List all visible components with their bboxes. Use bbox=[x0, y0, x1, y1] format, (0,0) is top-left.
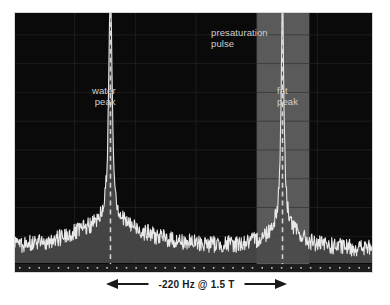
axis-tick bbox=[97, 267, 99, 269]
axis-tick bbox=[184, 267, 186, 269]
axis-tick bbox=[339, 267, 341, 269]
axis-tick bbox=[290, 267, 292, 269]
axis-tick bbox=[68, 267, 70, 269]
axis-tick bbox=[252, 267, 254, 269]
axis-tick bbox=[48, 267, 50, 269]
axis-tick bbox=[174, 267, 176, 269]
axis-measurement-label: -220 Hz @ 1.5 T bbox=[97, 279, 297, 290]
axis-tick bbox=[261, 267, 263, 269]
axis-tick bbox=[310, 267, 312, 269]
axis-tick bbox=[106, 267, 108, 269]
axis-tick bbox=[194, 267, 196, 269]
axis-tick bbox=[329, 267, 331, 269]
axis-tick bbox=[213, 267, 215, 269]
axis-tick bbox=[242, 267, 244, 269]
axis-tick bbox=[232, 267, 234, 269]
axis-tick bbox=[77, 267, 79, 269]
axis-tick bbox=[19, 267, 21, 269]
axis-tick bbox=[358, 267, 360, 269]
axis-tick bbox=[271, 267, 273, 269]
axis-tick bbox=[164, 267, 166, 269]
axis-tick bbox=[155, 267, 157, 269]
axis-tick bbox=[58, 267, 60, 269]
spectrum-figure: presaturation pulse water peak fat peak … bbox=[0, 0, 390, 305]
spectrum-chart bbox=[15, 13, 372, 272]
axis-tick bbox=[368, 267, 370, 269]
axis-tick bbox=[126, 267, 128, 269]
spectrum-plot-area: presaturation pulse water peak fat peak bbox=[14, 12, 373, 273]
axis-tick bbox=[223, 267, 225, 269]
axis-tick bbox=[145, 267, 147, 269]
axis-tick bbox=[300, 267, 302, 269]
axis-tick bbox=[203, 267, 205, 269]
axis-tick bbox=[87, 267, 89, 269]
axis-tick bbox=[349, 267, 351, 269]
axis-tick bbox=[320, 267, 322, 269]
axis-tick bbox=[29, 267, 31, 269]
axis-tick bbox=[135, 267, 137, 269]
axis-tick bbox=[116, 267, 118, 269]
axis-tick bbox=[281, 267, 283, 269]
axis-tick bbox=[38, 267, 40, 269]
